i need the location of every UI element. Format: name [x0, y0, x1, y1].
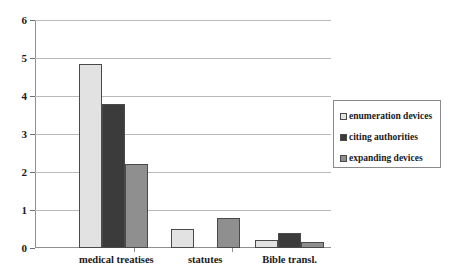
bar[interactable]	[102, 104, 125, 248]
bar[interactable]	[217, 218, 240, 248]
y-axis-label: 5	[22, 53, 28, 64]
bar[interactable]	[301, 242, 324, 248]
y-axis-label: 2	[22, 167, 28, 178]
bar-group: Bible transl.	[255, 20, 324, 248]
x-axis-tick	[232, 248, 233, 252]
y-axis-tick	[30, 96, 35, 97]
y-axis-tick	[30, 58, 35, 59]
x-axis-label: statutes	[171, 254, 240, 265]
x-axis-label: medical treatises	[79, 254, 148, 265]
y-axis-tick	[30, 134, 35, 135]
y-axis-label: 4	[22, 91, 28, 102]
y-axis-label: 6	[22, 15, 28, 26]
bar-group: statutes	[171, 20, 240, 248]
y-axis-tick	[30, 210, 35, 211]
bar-group: medical treatises	[79, 20, 148, 248]
legend-item[interactable]: expanding devices	[340, 149, 440, 168]
x-axis-tick	[134, 248, 135, 252]
y-axis-tick	[30, 20, 35, 21]
y-axis-label: 0	[22, 243, 28, 254]
plot-area: 6543210 medical treatisesstatutesBible t…	[35, 20, 331, 248]
y-axis-tick	[30, 248, 35, 249]
bar[interactable]	[171, 229, 194, 248]
legend-swatch-icon	[340, 134, 347, 141]
y-axis-label: 3	[22, 129, 28, 140]
legend-item-label: citing authorities	[349, 133, 418, 143]
bar[interactable]	[255, 240, 278, 248]
legend-swatch-icon	[340, 113, 347, 120]
legend-item[interactable]: enumeration devices	[340, 107, 440, 126]
y-axis-label: 1	[22, 205, 28, 216]
legend-item-label: enumeration devices	[349, 112, 432, 122]
chart-legend: enumeration devicesciting authoritiesexp…	[333, 100, 441, 168]
x-axis-label: Bible transl.	[255, 254, 324, 265]
bar[interactable]	[125, 164, 148, 248]
bar[interactable]	[278, 233, 301, 248]
bar-chart: 6543210 medical treatisesstatutesBible t…	[0, 0, 453, 276]
legend-item[interactable]: citing authorities	[340, 128, 440, 147]
legend-swatch-icon	[340, 155, 347, 162]
legend-item-label: expanding devices	[349, 154, 423, 164]
bar[interactable]	[79, 64, 102, 248]
y-axis-tick	[30, 172, 35, 173]
